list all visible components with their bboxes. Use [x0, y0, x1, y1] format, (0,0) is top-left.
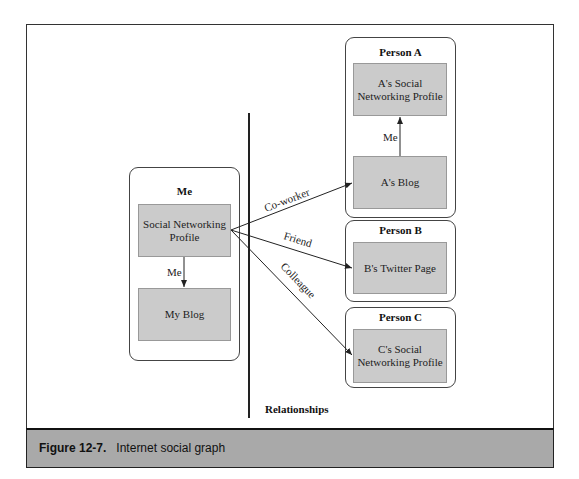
node-a-social-profile: A's Social Networking Profile [353, 63, 447, 116]
relationships-label: Relationships [265, 403, 329, 415]
node-b-twitter: B's Twitter Page [353, 242, 447, 294]
figure-caption-bar: Figure 12-7.Internet social graph [26, 428, 554, 468]
node-me-social-profile: Social Networking Profile [138, 204, 231, 257]
relationships-divider [248, 113, 250, 418]
person-a-title: Person A [346, 46, 455, 58]
figure-frame [26, 24, 554, 467]
figure-number: Figure 12-7. [39, 441, 106, 455]
person-me-title: Me [130, 185, 239, 197]
person-b-title: Person B [346, 224, 455, 236]
figure-title: Internet social graph [116, 441, 225, 455]
node-me-blog: My Blog [138, 288, 231, 341]
person-c-title: Person C [346, 311, 455, 323]
node-c-social-profile: C's Social Networking Profile [353, 329, 447, 383]
node-a-blog: A's Blog [353, 156, 447, 209]
figure-caption: Figure 12-7.Internet social graph [39, 441, 225, 455]
